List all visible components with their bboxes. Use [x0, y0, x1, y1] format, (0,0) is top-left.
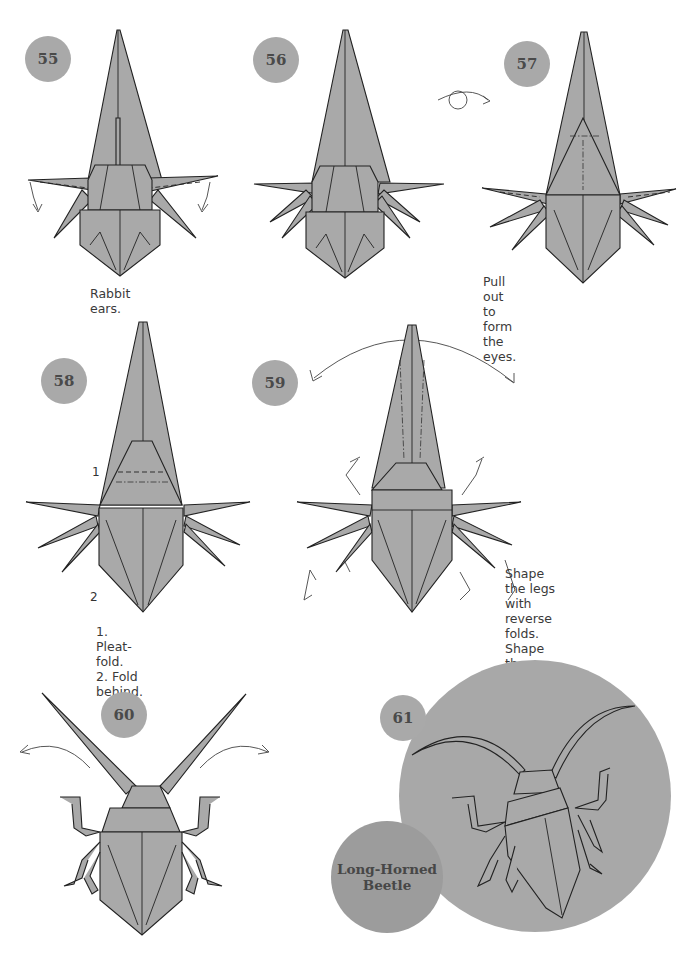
model-title-line2: Beetle [363, 877, 412, 893]
model-title: Long-Horned Beetle [331, 821, 443, 933]
model-title-line1: Long-Horned [337, 861, 437, 877]
step-61-diagram [0, 0, 698, 965]
